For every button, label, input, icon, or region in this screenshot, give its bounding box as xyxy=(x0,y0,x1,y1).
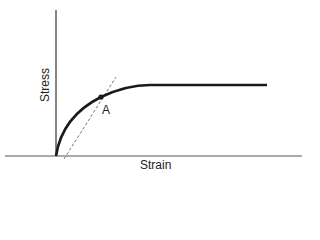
point-a-marker xyxy=(98,94,103,99)
point-a-label: A xyxy=(102,103,110,117)
y-axis-label: Stress xyxy=(38,72,52,102)
stress-strain-curve xyxy=(56,85,267,156)
x-axis-label: Strain xyxy=(140,158,171,172)
